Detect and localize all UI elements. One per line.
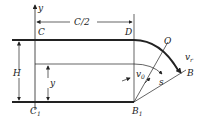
label-y: y <box>49 78 56 88</box>
label-b1: B1 <box>131 106 142 117</box>
label-v0: v0 <box>136 69 145 80</box>
label-o: O <box>164 36 172 46</box>
top-surface-curve <box>12 40 178 70</box>
label-half-width: C/2 <box>74 17 90 27</box>
label-c: C <box>38 27 45 37</box>
geometry-diagram: y C/2 C D O vr B H y v0 s C1 B1 <box>0 0 207 121</box>
label-c1: C1 <box>30 106 41 117</box>
label-b: B <box>186 68 194 78</box>
vr-arrow <box>172 62 181 73</box>
diagram-canvas: y C/2 C D O vr B H y v0 s C1 B1 <box>0 0 207 121</box>
label-h: H <box>12 68 21 78</box>
label-y-axis: y <box>37 3 44 13</box>
label-vr: vr <box>185 52 194 63</box>
label-d: D <box>124 27 132 37</box>
label-s: s <box>159 77 164 87</box>
v0-pointer <box>122 78 130 81</box>
